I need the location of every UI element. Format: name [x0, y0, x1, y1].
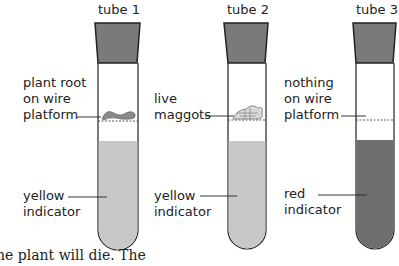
tube-3-indicator-label: red indicator	[284, 186, 341, 218]
tube-1-contents-label: plant root on wire platform	[23, 75, 86, 123]
tube-3-title: tube 3	[356, 2, 398, 17]
tube-2-title: tube 2	[227, 2, 269, 17]
stopper-1	[95, 23, 140, 63]
diagram-canvas	[0, 0, 399, 266]
stopper-2	[224, 23, 268, 63]
footer-text: he plant will die. The	[0, 247, 146, 263]
tube-2-contents-label: live maggots	[154, 91, 211, 123]
tube-3-contents-label: nothing on wire platform	[284, 75, 339, 123]
tube-1-title: tube 1	[98, 2, 140, 17]
tube-1-indicator-label: yellow indicator	[23, 188, 80, 220]
tube-2-indicator-label: yellow indicator	[154, 188, 211, 220]
stopper-3	[353, 23, 396, 63]
